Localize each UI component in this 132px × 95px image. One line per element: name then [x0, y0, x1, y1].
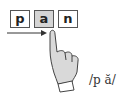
pointing-hand-icon [50, 30, 78, 92]
pronunciation-label: /p ă/ [89, 73, 116, 87]
arrow-right-icon [7, 30, 47, 36]
